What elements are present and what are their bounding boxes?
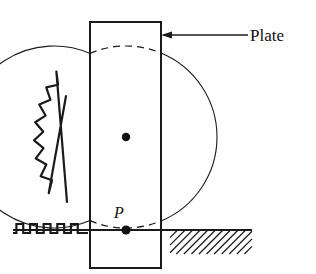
contact-point-label: P <box>113 204 124 221</box>
plate-callout-arrowhead-icon <box>161 32 172 39</box>
contact-point-dot <box>121 225 130 234</box>
hatch-line <box>237 239 252 254</box>
ground-spring-icon <box>13 224 88 233</box>
arc-spring-icon <box>34 72 67 202</box>
plate-callout-group <box>161 32 248 39</box>
plate-label: Plate <box>250 26 284 45</box>
disk-arc-top-dashed <box>90 46 161 53</box>
disk-arc-right <box>161 53 217 221</box>
hatch-line <box>170 230 178 238</box>
ground-hatching <box>170 230 252 254</box>
hatch-line <box>244 246 252 254</box>
disk-arc-left <box>0 46 90 228</box>
disk-group <box>0 46 217 228</box>
hatch-line <box>170 230 185 245</box>
figure-container: P Plate <box>0 0 316 274</box>
plate-disk-diagram: P Plate <box>0 0 316 274</box>
disk-center-dot <box>122 133 130 141</box>
